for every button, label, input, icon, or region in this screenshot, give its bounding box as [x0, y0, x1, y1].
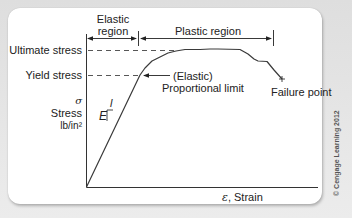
yield-stress-label: Yield stress [0, 69, 82, 81]
slope-rise-label: l [110, 97, 112, 109]
stress-units-label: lb/in² [0, 120, 82, 132]
elastic-label-line2: region [88, 25, 138, 37]
proportional-limit-label: Proportional limit [162, 82, 244, 94]
modulus-e-label: E [99, 110, 107, 122]
elastic-label-line1: Elastic [88, 13, 138, 25]
stress-label: Stress [0, 107, 82, 119]
strain-label: , Strain [228, 191, 263, 203]
sigma-symbol: σ [0, 95, 82, 107]
axes [87, 34, 319, 188]
plastic-region-label: Plastic region [175, 25, 241, 37]
figure-background: Elastic region Plastic region Ultimate s… [0, 0, 352, 218]
elastic-region-label: Elastic region [88, 13, 138, 37]
copyright-notice: © Cengage Learning 2012 [333, 110, 340, 196]
failure-point-label: Failure point [271, 86, 332, 98]
reference-lines [88, 51, 175, 76]
x-axis-label: ε, Strain [222, 191, 263, 204]
elastic-paren-label: (Elastic) [173, 70, 213, 82]
modulus-slope-indicator [107, 110, 113, 121]
ultimate-stress-label: Ultimate stress [0, 44, 82, 56]
